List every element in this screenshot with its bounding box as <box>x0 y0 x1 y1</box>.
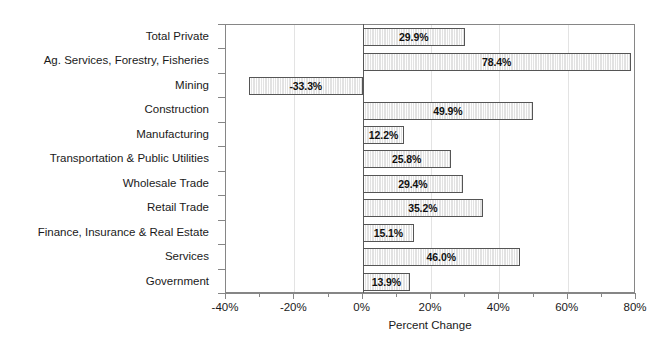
y-axis-label: Services <box>165 244 209 268</box>
bar-band: 15.1% <box>226 221 634 245</box>
y-axis-label: Construction <box>144 97 209 121</box>
x-axis-tick-label: -20% <box>280 301 307 313</box>
x-axis-tick <box>293 293 294 299</box>
y-axis-label: Finance, Insurance & Real Estate <box>38 220 209 244</box>
x-axis-tick <box>362 293 363 299</box>
y-axis-label: Total Private <box>146 24 209 48</box>
y-axis-tick <box>218 171 225 172</box>
bar-value-label: 78.4% <box>363 56 631 68</box>
bar-value-label: 29.9% <box>363 31 465 43</box>
x-axis-tick-label: -40% <box>212 301 239 313</box>
bar-band: 13.9% <box>226 270 634 294</box>
y-axis-tick <box>218 146 225 147</box>
y-axis-tick <box>218 97 225 98</box>
bar-band: 78.4% <box>226 49 634 73</box>
x-axis-tick-label: 20% <box>418 301 441 313</box>
x-axis-minor-tick <box>464 293 465 297</box>
y-axis-label: Manufacturing <box>136 122 209 146</box>
bar-value-label: 49.9% <box>363 105 533 117</box>
bar-band: 29.9% <box>226 25 634 49</box>
bar-value-label: 12.2% <box>363 129 405 141</box>
bar-band: 46.0% <box>226 245 634 269</box>
y-axis-tick <box>218 24 225 25</box>
x-axis-tick-label: 40% <box>487 301 510 313</box>
bar-band: 25.8% <box>226 147 634 171</box>
bar-band: 35.2% <box>226 196 634 220</box>
y-axis-tick <box>218 269 225 270</box>
bar-band: -33.3% <box>226 74 634 98</box>
plot-area: 29.9%78.4%-33.3%49.9%12.2%25.8%29.4%35.2… <box>225 24 635 293</box>
x-axis-tick <box>498 293 499 299</box>
bar-chart: Total PrivateAg. Services, Forestry, Fis… <box>0 0 669 349</box>
y-axis-label: Government <box>146 269 209 293</box>
x-axis-minor-tick <box>259 293 260 297</box>
y-axis-tick <box>218 293 225 294</box>
x-axis-tick <box>635 293 636 299</box>
x-axis-minor-tick <box>601 293 602 297</box>
x-axis-minor-tick <box>396 293 397 297</box>
y-axis-tick <box>218 122 225 123</box>
bar-value-label: -33.3% <box>249 80 363 92</box>
y-axis-category-labels: Total PrivateAg. Services, Forestry, Fis… <box>0 24 217 293</box>
x-axis-minor-tick <box>533 293 534 297</box>
bar-value-label: 35.2% <box>363 202 483 214</box>
y-axis-tick <box>218 220 225 221</box>
bar-band: 29.4% <box>226 172 634 196</box>
bar-value-label: 29.4% <box>363 178 463 190</box>
bar-band: 12.2% <box>226 123 634 147</box>
x-axis-tick-label: 80% <box>623 301 646 313</box>
bar-value-label: 15.1% <box>363 227 415 239</box>
bar-value-label: 46.0% <box>363 251 520 263</box>
bar-band: 49.9% <box>226 98 634 122</box>
y-axis-tick <box>218 73 225 74</box>
y-axis-label: Mining <box>175 73 209 97</box>
x-axis-tick <box>430 293 431 299</box>
y-axis-label: Transportation & Public Utilities <box>50 146 209 170</box>
y-axis-label: Ag. Services, Forestry, Fisheries <box>44 48 209 72</box>
x-axis-tick <box>567 293 568 299</box>
x-axis-title: Percent Change <box>225 319 635 331</box>
bar-value-label: 13.9% <box>363 276 410 288</box>
y-axis-tick <box>218 244 225 245</box>
x-axis-tick <box>225 293 226 299</box>
bar-value-label: 25.8% <box>363 153 451 165</box>
x-axis-minor-tick <box>328 293 329 297</box>
x-axis-tick-label: 60% <box>555 301 578 313</box>
y-axis-tick <box>218 48 225 49</box>
y-axis-tick <box>218 195 225 196</box>
x-axis-tick-label: 0% <box>353 301 370 313</box>
y-axis-label: Retail Trade <box>147 195 209 219</box>
y-axis-label: Wholesale Trade <box>123 171 209 195</box>
